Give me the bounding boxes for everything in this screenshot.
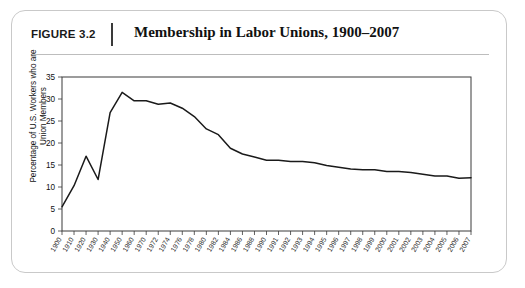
y-axis-tick-label: 0: [50, 227, 55, 236]
data-series-line: [62, 92, 471, 206]
plot-border: [62, 77, 471, 231]
x-axis-tick-label: 2007: [458, 236, 472, 253]
union-membership-line-chart: 05101520253035 1900191019201930194019501…: [12, 11, 508, 274]
x-axis-ticks: [62, 231, 471, 235]
x-axis-tick-labels: 1900191019201930194019501960197019721974…: [49, 236, 472, 253]
y-axis-label: Percentage of U.S. Workers who are Union…: [29, 41, 49, 191]
y-axis-tick-label: 5: [50, 205, 55, 214]
plot-frame: [62, 77, 471, 231]
chart-plot-area: Percentage of U.S. Workers who are Union…: [12, 11, 508, 274]
figure-card: FIGURE 3.2 Membership in Labor Unions, 1…: [11, 10, 507, 273]
